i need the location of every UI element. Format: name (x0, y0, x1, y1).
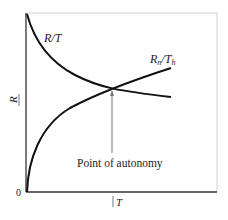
x-axis-label: T (116, 196, 123, 208)
diagram: R/T Rn/Th Point of autonomy R T 0 (0, 0, 228, 220)
origin-label: 0 (16, 187, 21, 198)
label-r-over-t: R/T (43, 31, 63, 45)
label-rn-over-th: Rn/Th (149, 52, 175, 67)
annotation-point-of-autonomy: Point of autonomy (77, 157, 163, 170)
y-axis-label: R (7, 96, 19, 104)
arrow-head-icon (110, 90, 114, 96)
curve-rn-over-th (27, 68, 171, 192)
